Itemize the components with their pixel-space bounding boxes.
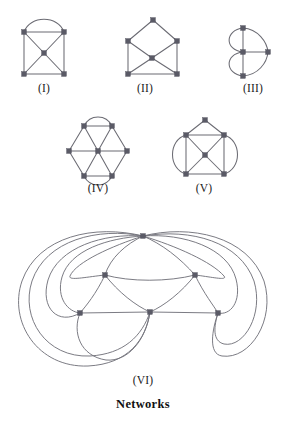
vertex bbox=[203, 153, 208, 158]
vertex bbox=[193, 273, 198, 278]
vertex bbox=[241, 26, 246, 31]
vertex bbox=[110, 174, 115, 179]
vertex bbox=[266, 50, 271, 55]
networks-diagram-canvas bbox=[0, 0, 286, 422]
vertex bbox=[110, 124, 115, 129]
graph-panel-V bbox=[173, 118, 238, 177]
graph-panel-VI bbox=[19, 232, 267, 366]
networks-figure: (I) (II) (III) (IV) (V) (VI) Networks bbox=[0, 0, 286, 422]
vertex bbox=[151, 18, 156, 23]
vertex bbox=[222, 133, 227, 138]
vertex bbox=[67, 149, 72, 154]
vertex bbox=[150, 56, 155, 61]
vertex bbox=[22, 30, 27, 35]
vertex bbox=[184, 133, 189, 138]
vertex bbox=[175, 72, 180, 77]
vertex bbox=[148, 310, 153, 315]
vertex bbox=[126, 39, 131, 44]
graph-panel-IV bbox=[67, 117, 130, 185]
vertex bbox=[241, 74, 246, 79]
vertex bbox=[222, 172, 227, 177]
vertex bbox=[82, 174, 87, 179]
vertex bbox=[175, 39, 180, 44]
vertex bbox=[125, 149, 130, 154]
vertex bbox=[103, 273, 108, 278]
vertex bbox=[22, 72, 27, 77]
vertex bbox=[62, 72, 67, 77]
vertex bbox=[141, 234, 146, 239]
vertex bbox=[203, 118, 208, 123]
vertex bbox=[96, 149, 101, 154]
vertex bbox=[62, 30, 67, 35]
graph-panel-I bbox=[22, 19, 67, 76]
vertex bbox=[184, 172, 189, 177]
vertex bbox=[126, 72, 131, 77]
vertex bbox=[241, 50, 246, 55]
vertex bbox=[82, 124, 87, 129]
vertex bbox=[78, 311, 83, 316]
vertex bbox=[42, 51, 47, 56]
graph-panel-II bbox=[126, 18, 180, 77]
vertex bbox=[216, 311, 221, 316]
graph-panel-III bbox=[229, 26, 270, 79]
